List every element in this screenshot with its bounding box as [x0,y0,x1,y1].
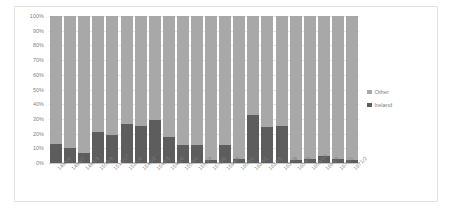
legend-label: Other [375,89,390,95]
x-axis-tick: 1594/5 [219,165,231,205]
bar-segment-other[interactable] [247,16,259,114]
bar-segment-other[interactable] [177,16,189,145]
x-axis-tick: 1600/1 [233,165,245,205]
bar-segment-other[interactable] [121,16,133,124]
bar-column[interactable] [276,16,288,163]
plot-area [49,16,359,163]
bar-segment-other[interactable] [276,16,288,126]
x-axis-tick: 1620/1 [247,165,259,205]
bar-column[interactable] [233,16,245,163]
x-axis-tick: 1671/2 [346,165,358,205]
bar-column[interactable] [121,16,133,163]
bar-segment-other[interactable] [191,16,203,145]
x-axis-tick: 1637/8 [276,165,288,205]
x-axis-tick: 1659/60 [304,165,316,205]
legend-item[interactable]: Ireland [367,102,429,108]
y-axis-tick-label: 20% [33,131,44,137]
x-axis-tick: 1624/5 [261,165,273,205]
y-axis-tick-label: 80% [33,42,44,48]
legend-swatch-icon [367,90,372,95]
bar-column[interactable] [50,16,62,163]
x-axis: 1485/61486/71492/31503/41516/171525/6154… [49,165,359,205]
bar-column[interactable] [64,16,76,163]
bar-segment-other[interactable] [106,16,118,135]
x-axis-tick: 1563/4 [191,165,203,205]
bar-column[interactable] [332,16,344,163]
bar-segment-other[interactable] [233,16,245,159]
y-axis-tick-label: 100% [30,13,44,19]
bar-column[interactable] [219,16,231,163]
x-axis-tick: 1541/2 [135,165,147,205]
legend-item[interactable]: Other [367,89,429,95]
bar-segment-other[interactable] [78,16,90,153]
bar-column[interactable] [135,16,147,163]
y-axis-tick-label: 50% [33,87,44,93]
bar-column[interactable] [318,16,330,163]
x-axis-tick: 1654/5 [290,165,302,205]
bar-segment-other[interactable] [64,16,76,148]
bar-segment-other[interactable] [290,16,302,160]
bar-segment-other[interactable] [332,16,344,159]
bar-column[interactable] [78,16,90,163]
bar-segment-other[interactable] [219,16,231,145]
y-axis-tick-label: 90% [33,28,44,34]
bar-column[interactable] [106,16,118,163]
y-axis-tick-label: 10% [33,145,44,151]
legend-swatch-icon [367,103,372,108]
x-axis-tick: 1503/4 [92,165,104,205]
bar-segment-ireland[interactable] [50,144,62,163]
y-axis-tick-label: 0% [36,160,44,166]
y-axis-tick-label: 70% [33,57,44,63]
x-axis-tick: 1542/3 [149,165,161,205]
bar-segment-other[interactable] [92,16,104,132]
bar-series-group [49,16,359,163]
y-axis-tick-label: 60% [33,72,44,78]
bar-segment-other[interactable] [163,16,175,137]
y-axis-tick-label: 30% [33,116,44,122]
bar-segment-other[interactable] [135,16,147,126]
bar-column[interactable] [92,16,104,163]
x-axis-tick: 1525/6 [121,165,133,205]
bar-segment-other[interactable] [50,16,62,144]
bar-column[interactable] [205,16,217,163]
bar-column[interactable] [261,16,273,163]
bar-column[interactable] [247,16,259,163]
bar-column[interactable] [149,16,161,163]
bar-column[interactable] [304,16,316,163]
x-axis-tick: 1550/1 [177,165,189,205]
x-axis-tick: 1575/6 [205,165,217,205]
x-axis-tick: 1664/5 [318,165,330,205]
bar-column[interactable] [163,16,175,163]
bar-column[interactable] [346,16,358,163]
x-axis-tick: 1485/6 [50,165,62,205]
bar-segment-other[interactable] [304,16,316,159]
bar-segment-other[interactable] [149,16,161,120]
y-axis: 0%10%20%30%40%50%60%70%80%90%100% [17,16,47,163]
bar-segment-other[interactable] [318,16,330,156]
x-axis-tick: 1545/6 [163,165,175,205]
x-axis-tick: 1492/3 [78,165,90,205]
legend-label: Ireland [375,102,393,108]
chart-container: 0%10%20%30%40%50%60%70%80%90%100% 1485/6… [14,6,438,202]
x-axis-tick: 1486/7 [64,165,76,205]
bar-segment-other[interactable] [261,16,273,127]
bar-column[interactable] [177,16,189,163]
y-axis-tick-label: 40% [33,101,44,107]
bar-segment-other[interactable] [205,16,217,160]
x-axis-tick: 1516/17 [106,165,118,205]
bar-column[interactable] [191,16,203,163]
bar-segment-other[interactable] [346,16,358,160]
x-axis-tick: 1670/1 [332,165,344,205]
chart-legend: OtherIreland [367,89,429,115]
bar-column[interactable] [290,16,302,163]
